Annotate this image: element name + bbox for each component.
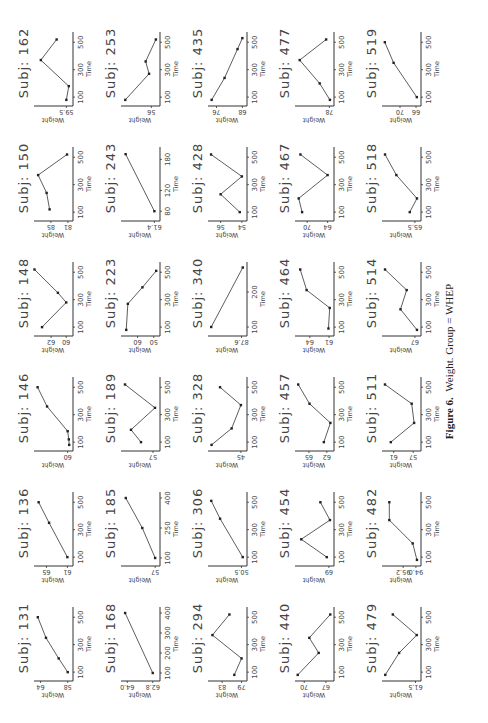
x-tick-label: 300 bbox=[77, 408, 85, 421]
y-axis-label: Weight bbox=[389, 116, 412, 124]
x-tick-label: 100 bbox=[425, 665, 433, 678]
data-line bbox=[125, 39, 156, 99]
y-axis-label: Weight bbox=[389, 461, 412, 469]
data-point bbox=[152, 672, 154, 674]
data-point bbox=[318, 652, 320, 654]
data-point bbox=[228, 613, 230, 615]
data-line bbox=[126, 271, 156, 330]
x-axis-label: Time bbox=[85, 291, 93, 308]
x-tick-label: 500 bbox=[338, 381, 346, 394]
data-point bbox=[155, 270, 157, 272]
x-tick-label: 80 bbox=[164, 207, 172, 216]
y-axis-label: Weight bbox=[41, 691, 64, 699]
x-tick-label: 500 bbox=[164, 266, 172, 279]
x-tick-label: 500 bbox=[251, 496, 259, 509]
x-tick-label: 300 bbox=[251, 638, 259, 651]
data-point bbox=[410, 403, 412, 405]
y-tick-label: 78 bbox=[325, 108, 333, 116]
chart-panel: Subj: 1361003005006165TimeWeight bbox=[14, 463, 101, 578]
data-point bbox=[384, 674, 386, 676]
x-tick-label: 500 bbox=[425, 151, 433, 164]
x-tick-label: 100 bbox=[425, 90, 433, 103]
y-tick-label: 87.6 bbox=[234, 338, 248, 346]
data-line bbox=[385, 384, 414, 442]
x-tick-label: 100 bbox=[77, 665, 85, 678]
data-line bbox=[301, 502, 330, 557]
y-axis-label: Weight bbox=[215, 346, 238, 354]
y-axis-label: Weight bbox=[389, 231, 412, 239]
y-axis-label: Weight bbox=[128, 116, 151, 124]
x-axis-label: Time bbox=[346, 176, 354, 193]
line-plot: 10030050059.5TimeWeight bbox=[14, 3, 101, 118]
chart-panel: Subj: 4571003005006265TimeWeight bbox=[275, 348, 362, 463]
data-point bbox=[66, 153, 68, 155]
data-point bbox=[242, 556, 244, 558]
data-point bbox=[329, 422, 331, 424]
chart-panel: Subj: 30610030050050.5TimeWeight bbox=[188, 463, 275, 578]
line-plot: 10030050057TimeWeight bbox=[101, 348, 188, 463]
data-point bbox=[326, 556, 328, 558]
x-axis-label: Time bbox=[85, 61, 93, 78]
y-axis-label: Weight bbox=[41, 346, 64, 354]
line-plot: 10020030040062.864.0TimeWeight bbox=[101, 578, 188, 693]
data-point bbox=[45, 192, 47, 194]
x-tick-label: 300 bbox=[164, 293, 172, 306]
data-point bbox=[223, 77, 225, 79]
data-line bbox=[299, 154, 328, 212]
x-tick-label: 300 bbox=[425, 638, 433, 651]
data-point bbox=[388, 501, 390, 503]
data-point bbox=[416, 329, 418, 331]
x-axis-label: Time bbox=[259, 61, 267, 78]
data-point bbox=[68, 85, 70, 87]
data-point bbox=[329, 613, 331, 615]
x-tick-label: 300 bbox=[338, 63, 346, 76]
y-tick-label: 64 bbox=[306, 338, 314, 346]
x-tick-label: 250 bbox=[164, 521, 172, 534]
y-tick-label: 95.2 bbox=[396, 568, 410, 576]
x-tick-label: 300 bbox=[338, 293, 346, 306]
x-tick-label: 100 bbox=[251, 435, 259, 448]
line-plot: 10030050056TimeWeight bbox=[101, 3, 188, 118]
data-point bbox=[384, 153, 386, 155]
y-axis-label: Weight bbox=[41, 461, 64, 469]
x-tick-label: 500 bbox=[425, 36, 433, 49]
chart-panel: Subj: 2438012018061.4TimeWeight bbox=[101, 118, 188, 233]
x-tick-label: 500 bbox=[77, 151, 85, 164]
line-plot: 10030050050.5TimeWeight bbox=[188, 463, 275, 578]
x-tick-label: 100 bbox=[164, 90, 172, 103]
x-axis-label: Time bbox=[172, 406, 180, 423]
x-tick-label: 100 bbox=[338, 550, 346, 563]
data-line bbox=[38, 154, 67, 209]
data-point bbox=[299, 268, 301, 270]
y-tick-label: 76 bbox=[212, 108, 220, 116]
data-point bbox=[36, 386, 38, 388]
y-axis-label: Weight bbox=[41, 116, 64, 124]
data-point bbox=[301, 211, 303, 213]
x-tick-label: 300 bbox=[77, 293, 85, 306]
data-point bbox=[329, 519, 331, 521]
y-axis-label: Weight bbox=[389, 576, 412, 584]
line-plot: 1003005006164TimeWeight bbox=[275, 233, 362, 348]
x-tick-label: 100 bbox=[164, 551, 172, 564]
data-point bbox=[384, 268, 386, 270]
data-point bbox=[392, 62, 394, 64]
data-point bbox=[33, 268, 35, 270]
y-tick-label: 68 bbox=[238, 108, 246, 116]
x-tick-label: 100 bbox=[338, 205, 346, 218]
x-tick-label: 100 bbox=[251, 90, 259, 103]
data-line bbox=[385, 269, 417, 329]
y-tick-label: 61 bbox=[390, 453, 398, 461]
x-tick-label: 500 bbox=[164, 36, 172, 49]
x-tick-label: 100 bbox=[425, 550, 433, 563]
line-plot: 1003005007983TimeWeight bbox=[188, 578, 275, 693]
x-tick-label: 100 bbox=[425, 320, 433, 333]
x-axis-label: Time bbox=[346, 406, 354, 423]
data-point bbox=[127, 303, 129, 305]
y-tick-label: 57 bbox=[409, 453, 417, 461]
data-line bbox=[385, 154, 417, 212]
line-plot: 10030050078TimeWeight bbox=[275, 3, 362, 118]
line-plot: 8012018061.4TimeWeight bbox=[101, 118, 188, 233]
data-point bbox=[230, 427, 232, 429]
data-point bbox=[319, 501, 321, 503]
y-tick-label: 66 bbox=[412, 108, 420, 116]
